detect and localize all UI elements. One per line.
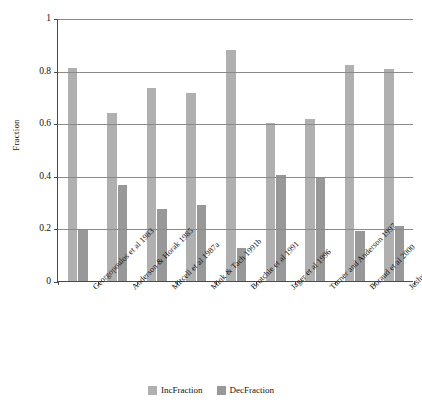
legend-swatch-icon — [148, 386, 157, 395]
legend-label: DecFraction — [230, 385, 274, 395]
bar-incfraction-0 — [68, 68, 78, 281]
legend-label: IncFraction — [161, 385, 202, 395]
x-category-label: Mitcell et al 1987a — [170, 285, 176, 291]
legend-item-decfraction: DecFraction — [217, 385, 274, 395]
bar-incfraction-3 — [186, 93, 196, 281]
y-tickmark — [54, 177, 58, 178]
y-tickmark — [54, 229, 58, 230]
x-category-label: Anderson & Horak 1985 — [130, 285, 136, 291]
y-tick-label: 0 — [25, 277, 51, 287]
x-category-label: Jager et al 1996 — [289, 285, 295, 291]
bar-decfraction-0 — [78, 230, 88, 281]
bar-incfraction-5 — [266, 123, 276, 281]
legend-item-incfraction: IncFraction — [148, 385, 202, 395]
y-tick-label: 0.2 — [25, 224, 51, 234]
bar-incfraction-1 — [107, 113, 117, 281]
legend-swatch-icon — [217, 386, 226, 395]
y-axis-tick-labels: 00.20.40.60.81 — [23, 0, 51, 412]
y-axis-title: Fraction — [11, 95, 21, 175]
x-category-label: Georgopoulos et al 1983 — [91, 285, 97, 291]
y-tickmark — [54, 19, 58, 20]
bar-incfraction-2 — [147, 88, 157, 281]
x-category-label: Mink & Tach 1991b — [209, 285, 215, 291]
gridline — [58, 124, 413, 125]
x-category-label: Joshua et al 2009 — [407, 285, 413, 291]
bar-incfraction-7 — [345, 65, 355, 281]
y-tick-label: 0.4 — [25, 172, 51, 182]
plot-area — [57, 19, 413, 282]
gridline — [58, 19, 413, 20]
bar-decfraction-2 — [157, 209, 167, 281]
x-category-label: Boraud et al 2000 — [368, 285, 374, 291]
y-tickmark — [54, 124, 58, 125]
x-category-label: Brotchie et al 1991 — [249, 285, 255, 291]
chart-legend: IncFractionDecFraction — [0, 385, 422, 395]
bar-chart: Fraction 00.20.40.60.81 Georgopoulos et … — [0, 0, 422, 412]
gridline — [58, 177, 413, 178]
y-tick-label: 0.8 — [25, 67, 51, 77]
bars-layer — [58, 19, 413, 281]
y-tick-label: 1 — [25, 14, 51, 24]
bar-incfraction-6 — [305, 119, 315, 281]
bar-incfraction-8 — [384, 69, 394, 281]
gridline — [58, 72, 413, 73]
bar-incfraction-4 — [226, 50, 236, 281]
y-tickmark — [54, 72, 58, 73]
y-tick-label: 0.6 — [25, 119, 51, 129]
x-category-label: Turner and Anderson 1997 — [328, 285, 334, 291]
gridline — [58, 229, 413, 230]
bar-decfraction-3 — [197, 205, 207, 281]
